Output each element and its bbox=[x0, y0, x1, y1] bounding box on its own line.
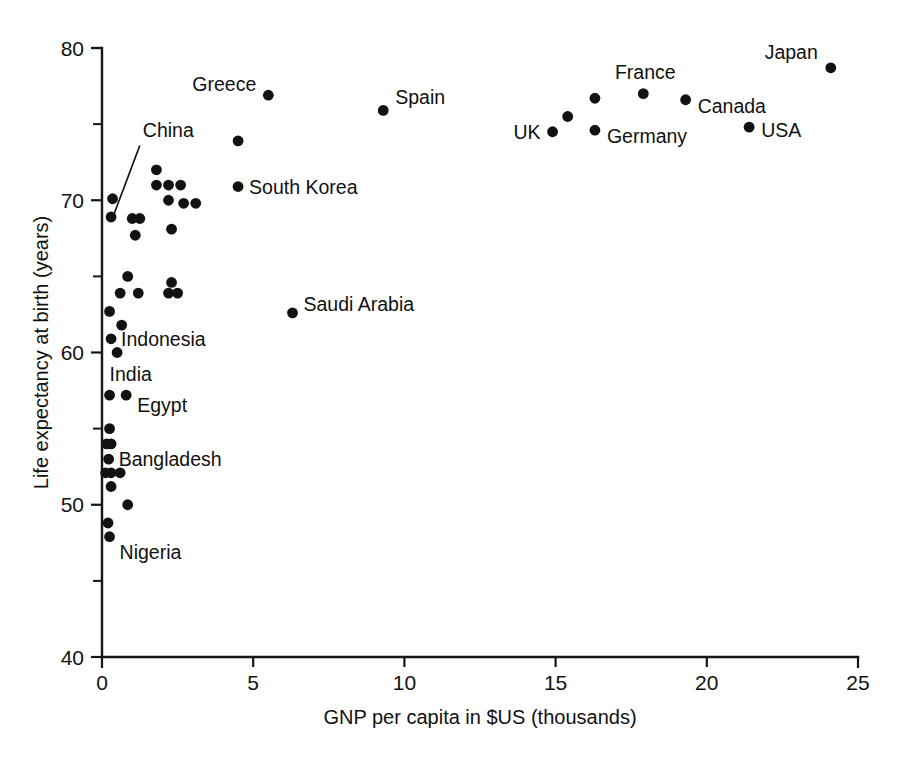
chart-canvas: 40506070800510152025GNP per capita in $U… bbox=[0, 0, 907, 765]
china-leader-line bbox=[114, 145, 140, 214]
data-point-spain bbox=[378, 105, 389, 116]
data-point bbox=[151, 164, 162, 175]
data-point bbox=[133, 288, 144, 299]
data-point-canada bbox=[680, 94, 691, 105]
data-point bbox=[190, 198, 201, 209]
x-tick-label: 10 bbox=[393, 671, 416, 694]
y-tick-label: 80 bbox=[61, 37, 84, 60]
data-point-indonesia bbox=[106, 333, 117, 344]
data-point bbox=[134, 213, 145, 224]
data-point bbox=[163, 195, 174, 206]
point-label-south-korea: South Korea bbox=[249, 176, 358, 198]
y-tick-label: 70 bbox=[61, 189, 84, 212]
point-label-spain: Spain bbox=[395, 86, 445, 108]
point-label-greece: Greece bbox=[192, 73, 256, 95]
data-point bbox=[106, 438, 117, 449]
data-point bbox=[115, 288, 126, 299]
point-label-japan: Japan bbox=[765, 41, 818, 63]
data-point-france bbox=[638, 88, 649, 99]
data-point bbox=[122, 499, 133, 510]
data-point bbox=[233, 135, 244, 146]
data-point bbox=[590, 93, 601, 104]
point-label-bangladesh: Bangladesh bbox=[119, 448, 222, 470]
data-point-usa bbox=[744, 122, 755, 133]
data-point-india bbox=[104, 390, 115, 401]
data-point-japan bbox=[825, 62, 836, 73]
data-point bbox=[178, 198, 189, 209]
data-point-south-korea bbox=[233, 181, 244, 192]
x-tick-label: 20 bbox=[695, 671, 718, 694]
point-label-nigeria: Nigeria bbox=[120, 541, 182, 563]
data-point-nigeria bbox=[104, 531, 115, 542]
x-tick-label: 5 bbox=[247, 671, 259, 694]
data-point bbox=[104, 423, 115, 434]
data-point-germany bbox=[590, 125, 601, 136]
data-point bbox=[172, 288, 183, 299]
data-point-greece bbox=[263, 90, 274, 101]
point-label-egypt: Egypt bbox=[137, 394, 187, 416]
data-point bbox=[151, 180, 162, 191]
x-tick-label: 0 bbox=[96, 671, 108, 694]
data-point bbox=[107, 193, 118, 204]
point-label-uk: UK bbox=[513, 121, 540, 143]
x-tick-label: 15 bbox=[544, 671, 567, 694]
y-axis-title: Life expectancy at birth (years) bbox=[30, 216, 52, 489]
data-point bbox=[106, 481, 117, 492]
data-point bbox=[175, 180, 186, 191]
data-point bbox=[122, 271, 133, 282]
data-point bbox=[163, 180, 174, 191]
data-point bbox=[562, 111, 573, 122]
point-label-france: France bbox=[615, 61, 676, 83]
data-point bbox=[166, 277, 177, 288]
point-label-canada: Canada bbox=[698, 95, 766, 117]
point-label-india: India bbox=[110, 363, 152, 385]
point-label-saudi-arabia: Saudi Arabia bbox=[304, 293, 415, 315]
data-point-egypt bbox=[121, 390, 132, 401]
x-axis-title: GNP per capita in $US (thousands) bbox=[323, 706, 636, 728]
data-point bbox=[130, 230, 141, 241]
x-tick-label: 25 bbox=[846, 671, 869, 694]
point-label-indonesia: Indonesia bbox=[121, 328, 206, 350]
data-point-uk bbox=[547, 126, 558, 137]
y-tick-label: 60 bbox=[61, 341, 84, 364]
data-point bbox=[104, 306, 115, 317]
data-point bbox=[103, 518, 114, 529]
point-label-usa: USA bbox=[761, 119, 801, 141]
data-point bbox=[166, 224, 177, 235]
y-tick-label: 40 bbox=[61, 646, 84, 669]
point-label-germany: Germany bbox=[607, 125, 687, 147]
data-point-saudi-arabia bbox=[287, 308, 298, 319]
point-label-china: China bbox=[143, 119, 194, 141]
y-tick-label: 50 bbox=[61, 493, 84, 516]
data-point-bangladesh bbox=[103, 454, 114, 465]
scatter-chart-figure: 40506070800510152025GNP per capita in $U… bbox=[0, 0, 907, 765]
